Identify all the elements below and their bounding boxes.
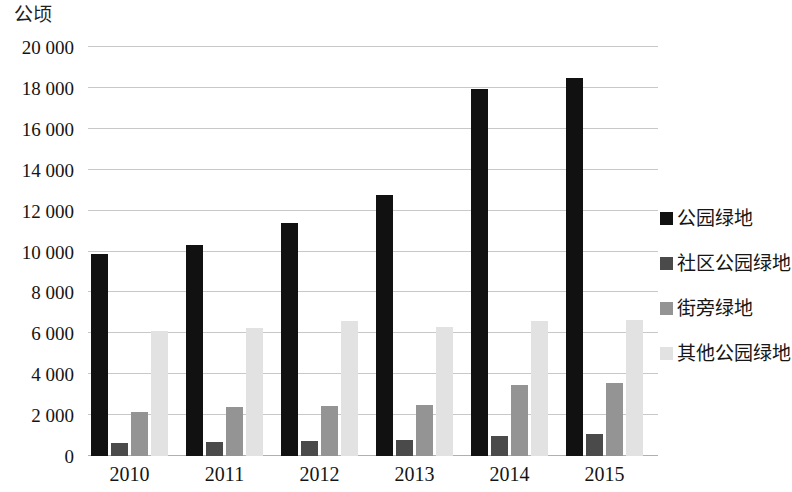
- legend-item[interactable]: 公园绿地: [660, 196, 792, 241]
- legend-item-label: 公园绿地: [677, 208, 753, 229]
- chart-legend: 公园绿地社区公园绿地街旁绿地其他公园绿地: [660, 196, 792, 376]
- bar: [321, 406, 338, 457]
- bar: [511, 385, 528, 456]
- bar: [301, 441, 318, 456]
- x-axis-tick: 2012: [300, 462, 340, 486]
- bar: [626, 320, 643, 456]
- bar: [436, 327, 453, 456]
- legend-swatch-icon: [660, 257, 673, 270]
- bar: [206, 442, 223, 456]
- y-axis-tick: 14 000: [22, 160, 74, 179]
- legend-item[interactable]: 其他公园绿地: [660, 331, 792, 376]
- x-axis-tick: 2014: [490, 462, 530, 486]
- y-axis-tick: 0: [65, 447, 75, 466]
- y-axis-unit-label: 公顷: [14, 4, 52, 26]
- bar: [471, 89, 488, 456]
- bar: [491, 436, 508, 456]
- bar: [606, 383, 623, 456]
- bar: [151, 331, 168, 456]
- bar: [186, 245, 203, 456]
- y-axis-tick: 12 000: [22, 201, 74, 220]
- x-axis-tick: 2011: [205, 462, 244, 486]
- y-axis-tick: 6 000: [31, 324, 74, 343]
- y-axis-tick: 20 000: [22, 38, 74, 57]
- bar: [396, 440, 413, 456]
- bar: [341, 321, 358, 456]
- bar-group: [373, 47, 468, 456]
- plot-area: [88, 47, 658, 456]
- legend-item-label: 街旁绿地: [677, 298, 753, 319]
- bar: [246, 328, 263, 456]
- legend-item[interactable]: 街旁绿地: [660, 286, 792, 331]
- legend-item-label: 其他公园绿地: [677, 343, 791, 364]
- y-axis-tick: 18 000: [22, 78, 74, 97]
- legend-swatch-icon: [660, 347, 673, 360]
- y-axis-tick: 10 000: [22, 242, 74, 261]
- y-axis-tick: 2 000: [31, 406, 74, 425]
- bar-group: [278, 47, 373, 456]
- legend-swatch-icon: [660, 302, 673, 315]
- bar-group: [88, 47, 183, 456]
- bar: [281, 223, 298, 456]
- y-axis-tick-labels: 02 0004 0006 0008 00010 00012 00014 0001…: [0, 47, 80, 456]
- bar: [91, 254, 108, 456]
- bar: [226, 407, 243, 456]
- bar-group: [183, 47, 278, 456]
- bar: [376, 195, 393, 456]
- y-axis-tick: 16 000: [22, 119, 74, 138]
- bar: [416, 405, 433, 456]
- bar: [111, 443, 128, 456]
- bar-chart: 公顷 02 0004 0006 0008 00010 00012 00014 0…: [0, 0, 792, 492]
- bar-group: [468, 47, 563, 456]
- x-axis-tick: 2010: [110, 462, 150, 486]
- x-axis-tick: 2013: [395, 462, 435, 486]
- legend-item[interactable]: 社区公园绿地: [660, 241, 792, 286]
- bar-group: [563, 47, 658, 456]
- legend-swatch-icon: [660, 212, 673, 225]
- y-axis-tick: 4 000: [31, 365, 74, 384]
- y-axis-tick: 8 000: [31, 283, 74, 302]
- x-axis-tick-labels: 201020112012201320142015: [88, 462, 658, 492]
- bar: [131, 412, 148, 456]
- bar: [566, 78, 583, 456]
- bar: [586, 434, 603, 456]
- bar: [531, 321, 548, 456]
- legend-item-label: 社区公园绿地: [677, 253, 791, 274]
- x-axis-tick: 2015: [585, 462, 625, 486]
